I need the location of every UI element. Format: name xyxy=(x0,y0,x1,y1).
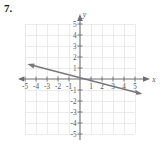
figure-container: 7. xyxy=(0,0,164,153)
y-tick-labels: 5 4 3 2 1 -1 -2 -3 -4 -5 xyxy=(71,21,77,139)
y-tick-label: 3 xyxy=(73,43,77,51)
x-tick-label: 5 xyxy=(133,83,137,91)
y-tick-label: 4 xyxy=(73,32,77,40)
y-tick-label: -3 xyxy=(71,109,77,117)
y-tick-label: -2 xyxy=(71,98,77,106)
coordinate-graph: -5 -4 -3 -2 -1 1 2 3 4 5 5 4 3 2 1 -1 -2… xyxy=(0,0,164,153)
x-axis-label: x xyxy=(151,75,156,84)
y-tick-label: -5 xyxy=(71,131,77,139)
y-tick-label: 5 xyxy=(73,21,77,29)
x-tick-label: -2 xyxy=(55,83,61,91)
y-tick-label: -1 xyxy=(71,87,77,95)
y-tick-label: 1 xyxy=(73,65,77,73)
y-tick-label: -4 xyxy=(71,120,77,128)
x-tick-label: -4 xyxy=(33,83,39,91)
x-tick-label: -5 xyxy=(22,83,28,91)
x-tick-label: 1 xyxy=(89,83,93,91)
y-axis-label: y xyxy=(82,10,87,19)
y-tick-label: 2 xyxy=(73,54,77,62)
x-tick-label: -3 xyxy=(44,83,50,91)
